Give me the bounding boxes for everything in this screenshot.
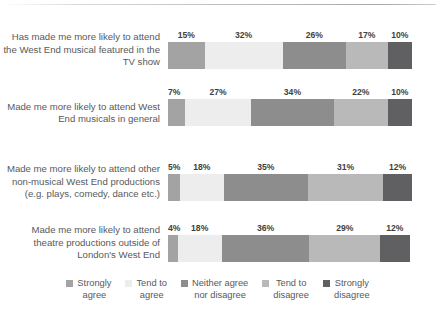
stacked-bar: 5%18%35%31%12% bbox=[168, 174, 412, 201]
legend-swatch-icon bbox=[262, 280, 269, 287]
bar-segment: 29% bbox=[309, 235, 380, 262]
legend-item[interactable]: Strongly disagree bbox=[323, 277, 370, 301]
segment-value-label: 35% bbox=[224, 162, 309, 174]
bar-segment: 34% bbox=[251, 99, 334, 126]
legend-swatch-icon bbox=[125, 280, 132, 287]
segment-value-label: 17% bbox=[346, 30, 387, 42]
legend-label: Tend to agree bbox=[136, 277, 167, 301]
bar-segment: 10% bbox=[388, 42, 412, 69]
legend-item[interactable]: Neither agree nor disagree bbox=[181, 277, 248, 301]
segment-value-label: 10% bbox=[388, 30, 412, 42]
bar-segment: 32% bbox=[205, 42, 283, 69]
legend-item[interactable]: Strongly agree bbox=[66, 277, 111, 301]
bar-segment: 35% bbox=[224, 174, 309, 201]
segment-value-label: 5% bbox=[168, 162, 180, 174]
chart-legend: Strongly agreeTend to agreeNeither agree… bbox=[0, 277, 436, 301]
segment-value-label: 34% bbox=[251, 87, 334, 99]
legend-item[interactable]: Tend to agree bbox=[125, 277, 167, 301]
bar-segment: 12% bbox=[380, 235, 409, 262]
chart-row: Made me more likely to attend theatre pr… bbox=[0, 224, 436, 262]
legend-label: Tend to disagree bbox=[273, 277, 309, 301]
bar-container: 5%18%35%31%12% bbox=[168, 174, 412, 201]
bar-segment: 27% bbox=[185, 99, 251, 126]
chart-row: Has made me more likely to attend the We… bbox=[0, 31, 436, 69]
bar-segment: 36% bbox=[222, 235, 310, 262]
bar-container: 15%32%26%17%10% bbox=[168, 42, 412, 69]
bar-segment: 12% bbox=[383, 174, 412, 201]
segment-value-label: 18% bbox=[180, 162, 223, 174]
bar-segment: 4% bbox=[168, 235, 178, 262]
stacked-bar-chart: Has made me more likely to attend the We… bbox=[0, 0, 436, 311]
bar-segment: 15% bbox=[168, 42, 205, 69]
bar-segment: 5% bbox=[168, 174, 180, 201]
chart-row: Made me more likely to attend West End m… bbox=[0, 99, 436, 126]
segment-value-label: 10% bbox=[388, 87, 412, 99]
bar-container: 4%18%36%29%12% bbox=[168, 235, 412, 262]
legend-swatch-icon bbox=[66, 280, 73, 287]
bar-segment: 18% bbox=[180, 174, 223, 201]
row-category-label: Made me more likely to attend theatre pr… bbox=[0, 224, 168, 262]
stacked-bar: 15%32%26%17%10% bbox=[168, 42, 412, 69]
bar-segment: 26% bbox=[283, 42, 346, 69]
segment-value-label: 12% bbox=[380, 223, 409, 235]
stacked-bar: 7%27%34%22%10% bbox=[168, 99, 412, 126]
segment-value-label: 7% bbox=[168, 87, 185, 99]
bar-container: 7%27%34%22%10% bbox=[168, 99, 412, 126]
segment-value-label: 31% bbox=[308, 162, 383, 174]
segment-value-label: 26% bbox=[283, 30, 346, 42]
row-category-label: Made me more likely to attend other non-… bbox=[0, 163, 168, 201]
bar-segment: 22% bbox=[334, 99, 388, 126]
segment-value-label: 22% bbox=[334, 87, 388, 99]
bar-segment: 31% bbox=[308, 174, 383, 201]
bar-segment: 10% bbox=[388, 99, 412, 126]
segment-value-label: 32% bbox=[205, 30, 283, 42]
stacked-bar: 4%18%36%29%12% bbox=[168, 235, 412, 262]
segment-value-label: 18% bbox=[178, 223, 222, 235]
legend-label: Neither agree nor disagree bbox=[192, 277, 248, 301]
legend-label: Strongly agree bbox=[77, 277, 111, 301]
segment-value-label: 36% bbox=[222, 223, 310, 235]
segment-value-label: 4% bbox=[168, 223, 178, 235]
bar-segment: 7% bbox=[168, 99, 185, 126]
legend-swatch-icon bbox=[181, 280, 188, 287]
row-category-label: Has made me more likely to attend the We… bbox=[0, 31, 168, 69]
bar-segment: 18% bbox=[178, 235, 222, 262]
segment-value-label: 12% bbox=[383, 162, 412, 174]
segment-value-label: 15% bbox=[168, 30, 205, 42]
row-category-label: Made me more likely to attend West End m… bbox=[0, 101, 168, 126]
segment-value-label: 29% bbox=[309, 223, 380, 235]
chart-row: Made me more likely to attend other non-… bbox=[0, 163, 436, 201]
legend-swatch-icon bbox=[323, 280, 330, 287]
bar-segment: 17% bbox=[346, 42, 387, 69]
segment-value-label: 27% bbox=[185, 87, 251, 99]
legend-item[interactable]: Tend to disagree bbox=[262, 277, 309, 301]
legend-label: Strongly disagree bbox=[334, 277, 370, 301]
